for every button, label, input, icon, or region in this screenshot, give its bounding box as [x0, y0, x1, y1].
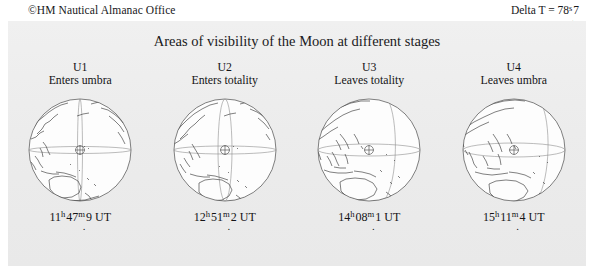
- stage-column-u4: U4 Leaves umbra: [442, 61, 587, 266]
- globe-u1-svg: [21, 94, 139, 206]
- stage-hour-unit: h: [350, 209, 354, 219]
- stage-time-scale: UT: [237, 210, 256, 224]
- delta-t-readout: Delta T = 78s7: [511, 4, 579, 16]
- stage-minute-unit: m: [368, 209, 376, 219]
- eclipse-visibility-figure: ©HM Nautical Almanac Office Delta T = 78…: [0, 0, 593, 277]
- stage-column-u2: U2 Enters totality: [153, 61, 298, 266]
- copyright-notice: ©HM Nautical Almanac Office: [28, 4, 176, 16]
- stage-time-scale: UT: [92, 210, 111, 224]
- globe-u1: [21, 94, 139, 206]
- globe-u3: [310, 94, 428, 206]
- stage-hours: 15: [483, 210, 495, 224]
- stage-description: Enters totality: [191, 74, 258, 88]
- delta-t-unit: s: [569, 4, 573, 13]
- stage-time-scale: UT: [381, 210, 400, 224]
- stage-minutes: 47: [66, 210, 78, 224]
- stage-description: Leaves totality: [334, 74, 404, 88]
- figure-header: ©HM Nautical Almanac Office Delta T = 78…: [0, 0, 593, 22]
- globe-u4-svg: [455, 94, 573, 206]
- stage-columns: U1 Enters umbra: [8, 61, 586, 266]
- stage-column-u1: U1 Enters umbra: [8, 61, 153, 266]
- stage-minutes: 11: [500, 210, 512, 224]
- figure-panel: Areas of visibility of the Moon at diffe…: [8, 21, 586, 266]
- stage-hour-unit: h: [61, 209, 65, 219]
- stage-description: Enters umbra: [49, 74, 112, 88]
- stage-minute-unit: m: [512, 209, 520, 219]
- delta-t-fraction: 7: [573, 4, 579, 16]
- delta-t-label: Delta T =: [511, 4, 558, 16]
- stage-time: 11h 47m9 UT: [49, 210, 111, 225]
- stage-hour-unit: h: [495, 209, 499, 219]
- stage-minute-unit: m: [223, 209, 231, 219]
- stage-time-scale: UT: [526, 210, 545, 224]
- stage-description: Leaves umbra: [481, 74, 548, 88]
- stage-time: 15h 11m4 UT: [483, 210, 545, 225]
- delta-t-value: 78: [558, 4, 570, 16]
- stage-minute-unit: m: [78, 209, 86, 219]
- stage-hours: 14: [338, 210, 350, 224]
- globe-u3-svg: [310, 94, 428, 206]
- stage-column-u3: U3 Leaves totality: [297, 61, 442, 266]
- stage-hour-unit: h: [206, 209, 210, 219]
- stage-hours: 11: [49, 210, 61, 224]
- globe-u2: [166, 94, 284, 206]
- stage-minutes: 51: [211, 210, 223, 224]
- stage-time: 14h 08m1 UT: [338, 210, 400, 225]
- page-title: Areas of visibility of the Moon at diffe…: [8, 33, 586, 50]
- stage-minutes: 08: [356, 210, 368, 224]
- stage-time: 12h 51m2 UT: [194, 210, 256, 225]
- globe-u4: [455, 94, 573, 206]
- stage-hours: 12: [194, 210, 206, 224]
- globe-u2-svg: [166, 94, 284, 206]
